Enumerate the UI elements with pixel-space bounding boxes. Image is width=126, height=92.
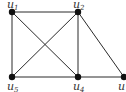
edge-u2-u3: [78, 12, 124, 77]
edge-layer: [12, 12, 124, 77]
vertex-label-u2: u2: [73, 0, 85, 12]
vertex-label-u5: u5: [7, 80, 19, 92]
label-layer: u1u2uu4u5: [7, 0, 125, 92]
vertex-label-u4: u4: [73, 80, 85, 92]
graph-diagram: u1u2uu4u5: [0, 0, 126, 92]
vertex-label-u1: u1: [7, 0, 19, 12]
vertex-label-u3: u: [118, 80, 125, 92]
node-layer: [9, 9, 126, 80]
